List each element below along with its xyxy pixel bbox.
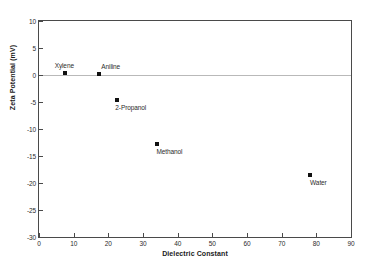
data-point-marker — [115, 98, 119, 102]
zero-reference-line — [39, 75, 351, 76]
y-axis-tick-label: -20 — [27, 180, 36, 187]
x-axis-tick: 80 — [316, 233, 317, 237]
x-axis-tick-label: 50 — [209, 240, 216, 247]
x-axis-tick-label: 90 — [347, 240, 354, 247]
y-axis-tick: -20 — [39, 183, 43, 184]
y-axis-tick-label: 0 — [32, 72, 36, 79]
y-axis-tick: -25 — [39, 210, 43, 211]
data-point-label: Methanol — [157, 148, 183, 155]
x-axis-title: Dielectric Constant — [38, 250, 352, 257]
data-point-label: Xylene — [55, 62, 74, 69]
y-axis-tick-label: -15 — [27, 153, 36, 160]
data-point-label: Aniline — [101, 63, 120, 70]
x-axis-tick-label: 10 — [70, 240, 77, 247]
x-axis-tick: 20 — [108, 233, 109, 237]
y-axis-tick: 10 — [39, 21, 43, 22]
x-axis-tick-label: 70 — [278, 240, 285, 247]
y-axis-tick: 5 — [39, 48, 43, 49]
x-axis-tick: 0 — [39, 233, 40, 237]
y-axis-tick-label: 5 — [32, 45, 36, 52]
y-axis-tick-label: 10 — [29, 18, 36, 25]
y-axis-tick-label: -25 — [27, 207, 36, 214]
y-axis-tick-label: -30 — [27, 234, 36, 241]
x-axis-tick: 70 — [282, 233, 283, 237]
data-point-marker — [97, 72, 101, 76]
x-axis-tick-label: 20 — [105, 240, 112, 247]
data-point-label: Water — [310, 179, 327, 186]
data-point-marker — [308, 173, 312, 177]
x-axis-tick: 90 — [351, 233, 352, 237]
y-axis-tick: 0 — [39, 75, 43, 76]
x-axis-tick-label: 0 — [37, 240, 41, 247]
data-point-label: 2-Propanol — [115, 104, 146, 111]
x-axis-tick-label: 60 — [243, 240, 250, 247]
zeta-potential-scatter-chart: 1050-5-10-15-20-25-30 010203040506070809… — [0, 0, 373, 270]
y-axis-tick-label: -5 — [30, 99, 36, 106]
x-axis-tick: 60 — [247, 233, 248, 237]
x-axis-tick-label: 40 — [174, 240, 181, 247]
y-axis-tick-label: -10 — [27, 126, 36, 133]
y-axis-tick: -5 — [39, 102, 43, 103]
y-axis-tick: -15 — [39, 156, 43, 157]
x-axis-tick: 10 — [74, 233, 75, 237]
x-axis-tick-label: 80 — [313, 240, 320, 247]
data-point-marker — [155, 142, 159, 146]
x-axis-tick: 40 — [178, 233, 179, 237]
y-axis-tick: -10 — [39, 129, 43, 130]
plot-area: 1050-5-10-15-20-25-30 010203040506070809… — [38, 20, 352, 238]
y-axis-tick: -30 — [39, 237, 43, 238]
y-axis-title: Zeta Potential (mV) — [9, 18, 16, 138]
data-point-marker — [63, 71, 67, 75]
x-axis-tick-label: 30 — [139, 240, 146, 247]
x-axis-tick: 30 — [143, 233, 144, 237]
x-axis-tick: 50 — [212, 233, 213, 237]
